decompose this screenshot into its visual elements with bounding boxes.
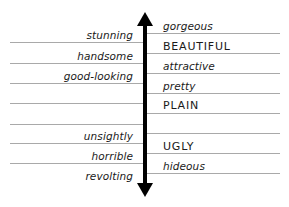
word-pretty: pretty bbox=[163, 80, 196, 92]
word-hideous: hideous bbox=[163, 160, 205, 172]
arrow-up-icon bbox=[137, 12, 153, 26]
left-rule-1 bbox=[10, 42, 143, 43]
left-rule-2 bbox=[10, 63, 143, 64]
word-gorgeous: gorgeous bbox=[163, 20, 213, 32]
scale-axis-arrow bbox=[143, 22, 147, 188]
right-rule-8 bbox=[147, 173, 280, 174]
word-revolting: revolting bbox=[85, 170, 133, 182]
right-rule-6 bbox=[147, 133, 280, 134]
word-good-looking: good-looking bbox=[64, 70, 133, 82]
word-unsightly: unsightly bbox=[84, 130, 133, 142]
right-rule-1 bbox=[147, 33, 280, 34]
right-rule-5 bbox=[147, 113, 280, 114]
word-attractive: attractive bbox=[163, 60, 215, 72]
word-horrible: horrible bbox=[92, 150, 133, 162]
left-rule-3 bbox=[10, 83, 143, 84]
left-rule-5 bbox=[10, 124, 143, 125]
word-scale-diagram: stunning handsome good-looking unsightly… bbox=[0, 0, 289, 207]
word-handsome: handsome bbox=[77, 50, 133, 62]
word-beautiful: BEAUTIFUL bbox=[163, 40, 231, 53]
right-rule-7 bbox=[147, 153, 280, 154]
word-plain: PLAIN bbox=[163, 99, 199, 112]
word-stunning: stunning bbox=[86, 29, 133, 41]
left-rule-6 bbox=[10, 143, 143, 144]
right-rule-4 bbox=[147, 93, 280, 94]
left-rule-4 bbox=[10, 103, 143, 104]
left-rule-7 bbox=[10, 163, 143, 164]
right-rule-3 bbox=[147, 73, 280, 74]
right-rule-2 bbox=[147, 53, 280, 54]
word-ugly: UGLY bbox=[163, 140, 194, 153]
arrow-down-icon bbox=[137, 183, 153, 197]
